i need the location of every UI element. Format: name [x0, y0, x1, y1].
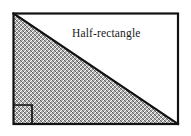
shape-label: Half-rectangle — [72, 26, 172, 40]
geometry-diagram-svg — [0, 0, 191, 136]
figure-container: Half-rectangle — [0, 0, 191, 136]
